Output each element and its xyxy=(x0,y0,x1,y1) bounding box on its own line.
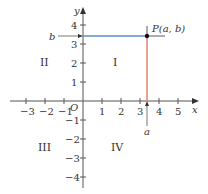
x-tick-label: 3 xyxy=(137,106,143,117)
y-tick-label: −3 xyxy=(65,153,80,164)
x-tick-label: −2 xyxy=(39,106,54,117)
a-label: a xyxy=(144,126,150,137)
y-tick-label: −2 xyxy=(65,134,80,145)
point-p-label: P(a, b) xyxy=(151,23,185,34)
quadrant-i-label: I xyxy=(113,56,117,69)
y-tick-label: −4 xyxy=(65,172,80,183)
x-tick-label: −3 xyxy=(20,106,35,117)
x-axis-label: x xyxy=(192,104,198,115)
b-arrow-icon xyxy=(78,34,83,38)
y-tick-label: 3 xyxy=(71,39,77,50)
quadrant-iv-label: IV xyxy=(111,141,124,154)
y-tick-label: 4 xyxy=(71,20,77,31)
x-tick-label: 1 xyxy=(99,106,105,117)
a-arrow-icon xyxy=(145,101,149,106)
x-tick-label: 2 xyxy=(118,106,124,117)
point-p xyxy=(145,34,149,38)
coordinate-plane: y x O −3 −2 −1 1 2 3 4 5 4 3 2 1 −1 −2 −… xyxy=(0,0,208,194)
y-axis-label: y xyxy=(73,5,80,16)
y-tick-label: 2 xyxy=(71,58,77,69)
quadrant-iii-label: III xyxy=(38,141,51,154)
y-tick-label: 1 xyxy=(71,77,77,88)
x-tick-label: 4 xyxy=(156,106,162,117)
y-axis-arrow-icon xyxy=(80,7,86,14)
b-label: b xyxy=(49,31,55,42)
quadrant-ii-label: II xyxy=(40,56,49,69)
y-tick-label: −1 xyxy=(65,115,80,126)
x-tick-label: 5 xyxy=(175,106,181,117)
